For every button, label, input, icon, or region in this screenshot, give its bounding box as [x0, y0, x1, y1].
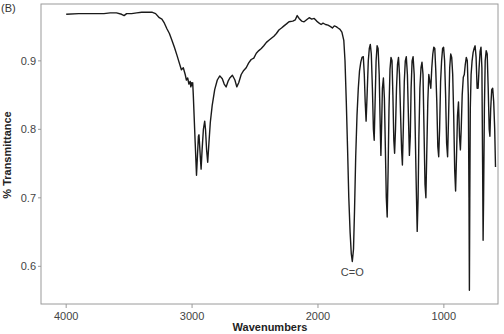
y-tick-label: 0.7 [21, 192, 36, 204]
plot-frame [41, 4, 498, 304]
x-axis-title: Wavenumbers [233, 321, 308, 333]
y-axis: 0.60.70.80.9 [21, 55, 41, 272]
y-tick-label: 0.6 [21, 260, 36, 272]
spectrum-line [66, 12, 495, 290]
annotation-carbonyl-label: C=O [341, 266, 364, 278]
y-axis-title: % Transmittance [1, 111, 13, 198]
x-tick-label: 4000 [54, 310, 78, 322]
panel-label: (B) [1, 2, 16, 14]
x-tick-label: 2000 [306, 310, 330, 322]
y-tick-label: 0.8 [21, 123, 36, 135]
x-tick-label: 1000 [432, 310, 456, 322]
x-tick-label: 3000 [180, 310, 204, 322]
y-tick-label: 0.9 [21, 55, 36, 67]
x-axis: 4000300020001000 [54, 304, 456, 322]
ir-spectrum-chart: (B) 4000300020001000 0.60.70.80.9 C=O Wa… [0, 0, 504, 334]
